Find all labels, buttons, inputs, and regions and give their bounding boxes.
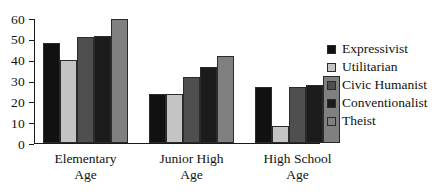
legend-swatch-theist bbox=[327, 117, 336, 126]
legend-item-label: Expressivist bbox=[342, 42, 408, 56]
bar bbox=[183, 77, 200, 143]
bar bbox=[255, 87, 272, 143]
x-axis-group-label-line2: Age bbox=[54, 167, 116, 183]
legend-swatch-conventionalist bbox=[327, 99, 336, 108]
y-axis-tick-label: 0 bbox=[18, 138, 25, 152]
bar bbox=[43, 43, 60, 143]
bar bbox=[306, 85, 323, 143]
legend-item-label: Civic Humanist bbox=[342, 78, 427, 92]
y-axis-tick: 60 bbox=[29, 19, 34, 20]
bar-groups: ElementaryAgeJunior HighAgeHigh SchoolAg… bbox=[35, 19, 320, 143]
legend-item-label: Conventionalist bbox=[342, 96, 428, 110]
y-axis-tick: 20 bbox=[29, 102, 34, 103]
legend-swatch-civic-humanist bbox=[327, 81, 336, 90]
x-axis-group-label: ElementaryAge bbox=[54, 151, 116, 183]
x-axis-group-label-line1: Elementary bbox=[54, 151, 116, 166]
y-axis-tick-label: 50 bbox=[11, 34, 25, 48]
bar bbox=[94, 36, 111, 143]
y-axis-tick-label: 60 bbox=[11, 13, 25, 27]
x-axis-group-label-line2: Age bbox=[159, 167, 223, 183]
legend-item[interactable]: Utilitarian bbox=[327, 58, 437, 76]
legend-item[interactable]: Theist bbox=[327, 112, 437, 130]
x-axis-group-label-line1: High School bbox=[264, 151, 332, 166]
bar-group: Junior HighAge bbox=[149, 19, 234, 143]
legend-swatch-utilitarian bbox=[327, 63, 336, 72]
x-axis-group-label-line2: Age bbox=[264, 167, 332, 183]
y-axis-tick: 0 bbox=[29, 144, 34, 145]
bar bbox=[111, 19, 128, 143]
y-axis-tick: 10 bbox=[29, 123, 34, 124]
plot-area: 6050403020100 ElementaryAgeJunior HighAg… bbox=[34, 19, 314, 144]
legend-item[interactable]: Conventionalist bbox=[327, 94, 437, 112]
bar-chart: 6050403020100 ElementaryAgeJunior HighAg… bbox=[0, 0, 437, 194]
y-axis-tick-label: 10 bbox=[11, 117, 25, 131]
y-axis-tick-label: 40 bbox=[11, 54, 25, 68]
legend-item[interactable]: Expressivist bbox=[327, 40, 437, 58]
bar bbox=[149, 94, 166, 143]
legend-item-label: Utilitarian bbox=[342, 60, 397, 74]
x-axis-group-label: Junior HighAge bbox=[159, 151, 223, 183]
y-axis-tick: 40 bbox=[29, 61, 34, 62]
bar bbox=[289, 87, 306, 143]
bar bbox=[60, 60, 77, 143]
x-axis-group-label: High SchoolAge bbox=[264, 151, 332, 183]
bar bbox=[166, 94, 183, 143]
bar bbox=[77, 37, 94, 143]
x-axis-group-label-line1: Junior High bbox=[159, 151, 223, 166]
legend-item[interactable]: Civic Humanist bbox=[327, 76, 437, 94]
y-axis-tick: 50 bbox=[29, 40, 34, 41]
y-axis-tick-label: 30 bbox=[11, 75, 25, 89]
y-axis-tick-label: 20 bbox=[11, 96, 25, 110]
legend-item-label: Theist bbox=[342, 114, 376, 128]
bar bbox=[272, 126, 289, 143]
bar-group: ElementaryAge bbox=[43, 19, 128, 143]
y-axis-tick: 30 bbox=[29, 82, 34, 83]
bar bbox=[200, 67, 217, 143]
legend-swatch-expressivist bbox=[327, 45, 336, 54]
bar bbox=[217, 56, 234, 144]
chart-legend: ExpressivistUtilitarianCivic HumanistCon… bbox=[327, 40, 437, 130]
x-axis-line bbox=[34, 143, 320, 144]
